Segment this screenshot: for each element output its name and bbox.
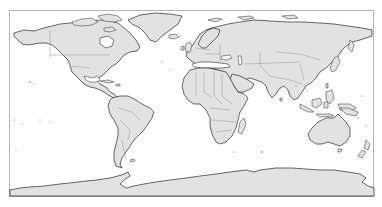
north-america xyxy=(14,20,140,100)
new-zealand xyxy=(364,140,370,150)
new-guinea xyxy=(340,108,358,116)
south-america xyxy=(108,96,154,168)
australia xyxy=(308,114,350,146)
madagascar xyxy=(238,118,246,134)
world-map xyxy=(0,0,382,207)
antarctica xyxy=(10,168,374,196)
tasmania xyxy=(338,149,342,152)
